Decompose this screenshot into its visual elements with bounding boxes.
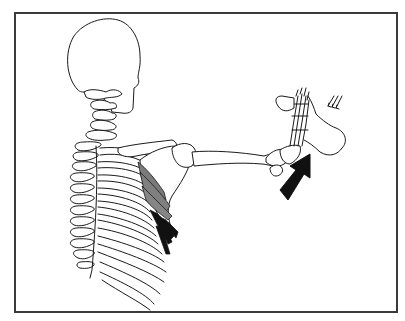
- examiner-hand: [304, 96, 345, 155]
- arm-bones: [172, 144, 290, 177]
- hand-skeleton: [276, 88, 309, 164]
- pressure-arrows-icon: [328, 96, 342, 109]
- anatomy-illustration: [0, 0, 405, 321]
- thoracic-spine: [70, 142, 101, 278]
